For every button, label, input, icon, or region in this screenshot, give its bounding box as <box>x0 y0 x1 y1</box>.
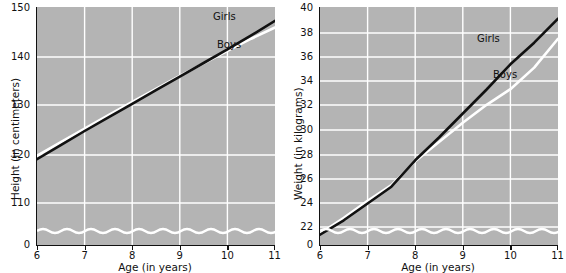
height-boys-label: Boys <box>217 39 241 50</box>
height-girls-label: Girls <box>213 11 236 22</box>
height-ytick-120: 120 <box>0 150 30 160</box>
weight-xtick-11: 11 <box>548 251 566 261</box>
weight-axis-break-wave <box>320 229 558 233</box>
height-plot-area: Girls Boys <box>37 7 275 245</box>
height-ytick-150: 150 <box>0 3 30 13</box>
weight-xtick-8: 8 <box>405 251 425 261</box>
weight-xtick-7: 7 <box>358 251 378 261</box>
weight-ytick-26: 26 <box>283 174 313 184</box>
height-x-axis-line <box>37 245 275 246</box>
weight-x-axis-line <box>320 245 558 246</box>
height-ytick-130: 130 <box>0 100 30 110</box>
weight-ytick-22: 22 <box>283 222 313 232</box>
weight-ytick-40: 40 <box>283 3 313 13</box>
height-xtick-8: 8 <box>122 251 142 261</box>
weight-ytick-30: 30 <box>283 125 313 135</box>
height-x-axis-title: Age (in years) <box>95 261 215 273</box>
weight-ytick-24: 24 <box>283 198 313 208</box>
height-xtick-11: 11 <box>265 251 285 261</box>
height-xtick-10: 10 <box>217 251 237 261</box>
weight-ytick-28: 28 <box>283 150 313 160</box>
height-ytick-110: 110 <box>0 198 30 208</box>
height-ytick-140: 140 <box>0 52 30 62</box>
weight-plot-area: Girls Boys <box>320 7 558 245</box>
height-ytick-0: 0 <box>0 240 30 250</box>
weight-chart-panel: Weight (in kilograms) 40 38 36 34 32 30 … <box>283 0 566 272</box>
weight-plot-svg <box>320 7 558 245</box>
weight-y-axis-line <box>319 7 320 246</box>
weight-xtick-9: 9 <box>453 251 473 261</box>
weight-ytick-36: 36 <box>283 52 313 62</box>
weight-x-axis-title: Age (in years) <box>378 261 498 273</box>
weight-girls-label: Girls <box>477 33 500 44</box>
height-y-axis-title: Height (in centimeters) <box>9 78 21 200</box>
weight-ytick-34: 34 <box>283 76 313 86</box>
height-xtick-6: 6 <box>27 251 47 261</box>
weight-xtick-10: 10 <box>500 251 520 261</box>
height-xtick-7: 7 <box>75 251 95 261</box>
weight-boys-label: Boys <box>493 69 517 80</box>
height-axis-break-wave <box>37 229 275 233</box>
weight-xtick-6: 6 <box>310 251 330 261</box>
height-xtick-9: 9 <box>170 251 190 261</box>
height-chart-panel: Height (in centimeters) 150 140 130 120 … <box>0 0 283 272</box>
height-y-axis-line <box>36 7 37 246</box>
weight-ytick-0: 0 <box>283 240 313 250</box>
weight-ytick-32: 32 <box>283 100 313 110</box>
weight-ytick-38: 38 <box>283 28 313 38</box>
